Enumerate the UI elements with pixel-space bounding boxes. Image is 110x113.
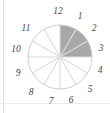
clock-number-9: 9 (16, 69, 21, 79)
clock-number-8: 8 (29, 88, 34, 98)
clock-number-2: 2 (92, 24, 97, 34)
clock-number-11: 11 (22, 24, 31, 34)
clock-number-5: 5 (88, 85, 93, 95)
clock-number-3: 3 (99, 44, 104, 54)
clock-number-4: 4 (98, 66, 103, 76)
clock-number-6: 6 (69, 96, 74, 106)
clock-number-7: 7 (49, 97, 54, 107)
clock-pie-chart (0, 0, 110, 113)
clock-number-10: 10 (11, 45, 21, 55)
clock-number-12: 12 (53, 7, 63, 17)
clock-pie-figure: 121234567891011 (0, 0, 110, 113)
clock-number-1: 1 (78, 12, 83, 22)
